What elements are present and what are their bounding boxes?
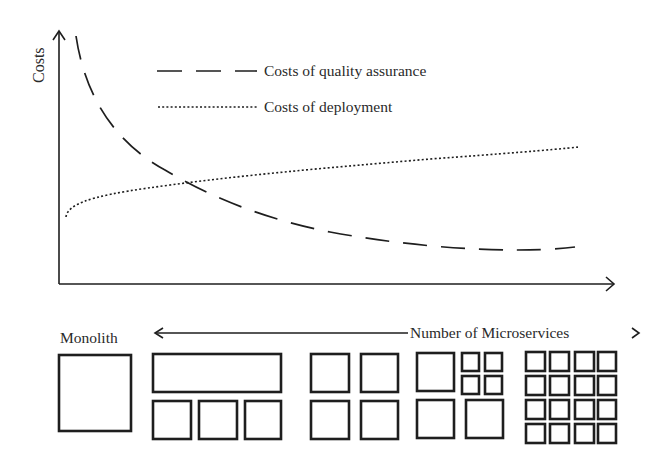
- service-box: [466, 400, 503, 438]
- architecture-group-7-services: [417, 353, 503, 438]
- service-box: [417, 400, 454, 438]
- service-box-small: [485, 376, 502, 394]
- service-box-small: [575, 400, 594, 419]
- service-box-small: [598, 352, 616, 371]
- service-box-small: [550, 352, 569, 371]
- service-box-small: [575, 352, 594, 371]
- y-axis: [53, 31, 65, 284]
- service-box: [245, 401, 281, 439]
- legend-item-deployment: Costs of deployment: [158, 98, 393, 115]
- monolith-box: [59, 355, 131, 431]
- service-box: [153, 354, 281, 392]
- deployment-cost-curve: [66, 147, 579, 217]
- service-box-small: [462, 376, 479, 394]
- service-box-small: [550, 376, 569, 395]
- service-box: [311, 354, 349, 392]
- legend: Costs of quality assurance Costs of depl…: [157, 62, 426, 115]
- y-axis-label: Costs: [30, 47, 47, 83]
- service-box-small: [575, 424, 594, 443]
- legend-item-quality-assurance: Costs of quality assurance: [157, 62, 426, 79]
- x-axis: [59, 277, 614, 291]
- architecture-group-4-services: [153, 354, 281, 439]
- service-box-small: [598, 424, 616, 443]
- service-box: [417, 353, 454, 391]
- service-box-small: [462, 353, 479, 371]
- service-box: [311, 401, 349, 439]
- service-box: [199, 401, 237, 439]
- service-box: [361, 354, 398, 392]
- arrow-right-icon: [632, 328, 639, 338]
- service-box-small: [598, 400, 616, 419]
- microservices-cost-diagram: Costs Costs of quality assurance Costs o…: [0, 0, 652, 467]
- monolith-label: Monolith: [60, 329, 118, 346]
- architecture-group-4-equal-services: [311, 354, 398, 439]
- architecture-group-16-services: [526, 352, 616, 443]
- service-box-small: [526, 424, 545, 443]
- service-box-small: [550, 424, 569, 443]
- service-box-small: [526, 352, 545, 371]
- service-box-small: [526, 400, 545, 419]
- service-box-small: [485, 353, 502, 371]
- service-box: [153, 401, 191, 439]
- service-box-small: [526, 376, 545, 395]
- service-box-small: [550, 400, 569, 419]
- legend-label-deployment: Costs of deployment: [264, 98, 393, 115]
- legend-label-quality-assurance: Costs of quality assurance: [264, 62, 426, 79]
- service-box-small: [598, 376, 616, 395]
- number-of-microservices-label: Number of Microservices: [410, 324, 569, 341]
- service-box-small: [575, 376, 594, 395]
- service-box: [361, 401, 398, 439]
